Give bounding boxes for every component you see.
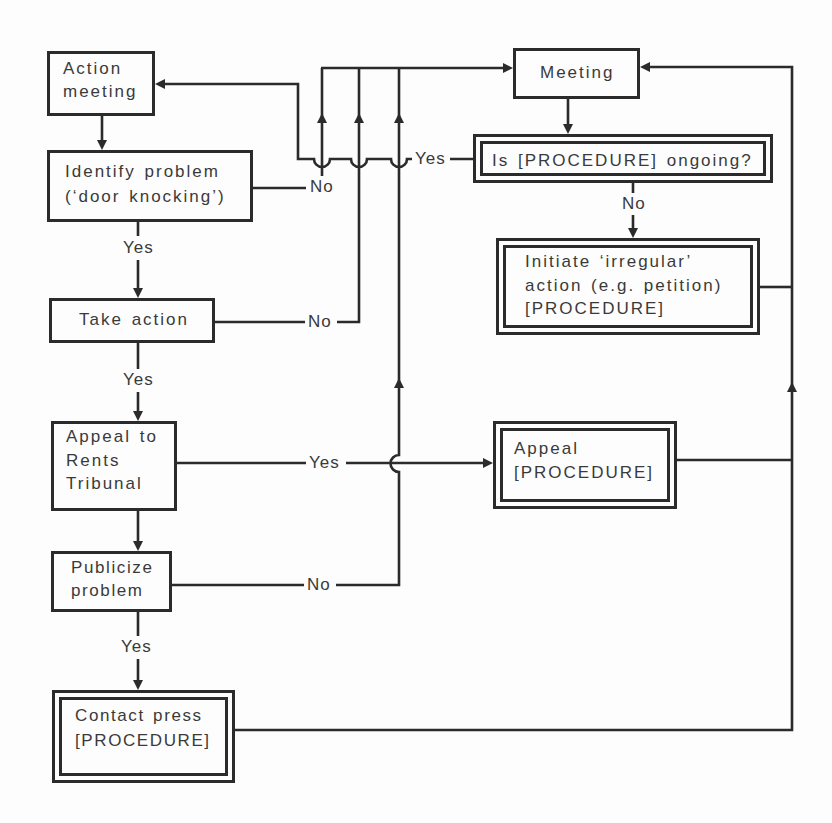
label-line: Identify problem	[65, 159, 226, 184]
node-is-procedure-ongoing: Is [PROCEDURE] ongoing?	[473, 134, 773, 183]
node-label: Is [PROCEDURE] ongoing?	[492, 149, 753, 172]
node-meeting: Meeting	[513, 48, 640, 99]
label-line: action (e.g. petition)	[525, 274, 722, 298]
node-appeal-procedure: Appeal [PROCEDURE]	[493, 421, 677, 509]
arrow-up-icon	[394, 378, 404, 388]
node-label: Publicize problem	[71, 556, 153, 602]
connector-meeting-to-is-procedure	[563, 99, 573, 134]
arrow-down-icon	[133, 680, 143, 690]
edge-label-is-procedure-no: No	[622, 194, 646, 214]
label-line: Action	[63, 57, 137, 80]
label-line: Meeting	[540, 61, 614, 84]
arrow-down-icon	[133, 411, 143, 421]
label-line: [PROCEDURE]	[514, 461, 654, 485]
node-label: Action meeting	[63, 57, 137, 103]
node-take-action: Take action	[49, 298, 215, 343]
label-line: Initiate ‘irregular’	[525, 250, 722, 274]
connector-appeal-rents-to-publicize	[133, 511, 143, 551]
label-line: problem	[71, 579, 153, 602]
arrow-down-icon	[133, 541, 143, 551]
label-line: Tribunal	[66, 472, 158, 496]
node-label: Take action	[79, 308, 189, 331]
edge-label-appeal-rents-yes: Yes	[309, 453, 340, 473]
label-line: Contact press	[75, 703, 211, 728]
connector-identify-problem-no	[253, 68, 327, 188]
arrow-down-icon	[563, 124, 573, 134]
node-label: Appeal [PROCEDURE]	[514, 437, 654, 484]
edge-label-publicize-no: No	[307, 575, 331, 595]
label-line: Rents	[66, 449, 158, 473]
node-label: Initiate ‘irregular’ action (e.g. petiti…	[525, 250, 722, 321]
node-publicize-problem: Publicize problem	[51, 551, 172, 612]
flowchart-canvas: Action meeting Identify problem (‘door k…	[0, 0, 832, 823]
node-label: Identify problem (‘door knocking’)	[65, 159, 226, 209]
label-line: Is [PROCEDURE] ongoing?	[492, 149, 753, 172]
edge-label-identify-no: No	[310, 177, 334, 197]
edge-label-take-action-yes: Yes	[123, 370, 154, 390]
arrow-up-icon	[354, 113, 364, 123]
edge-label-publicize-yes: Yes	[121, 637, 152, 657]
label-line: (‘door knocking’)	[65, 184, 226, 209]
connector-action-meeting-to-identify-problem	[97, 116, 107, 150]
edge-label-identify-yes: Yes	[123, 238, 154, 258]
arrow-down-icon	[628, 228, 638, 238]
arrow-left-icon	[155, 79, 165, 89]
connector-identify-problem-yes	[133, 222, 143, 298]
node-contact-press-procedure: Contact press [PROCEDURE]	[52, 690, 235, 783]
label-line: meeting	[63, 80, 137, 103]
node-initiate-irregular-action-procedure: Initiate ‘irregular’ action (e.g. petiti…	[496, 238, 760, 335]
label-line: [PROCEDURE]	[525, 297, 722, 321]
arrow-up-icon	[394, 113, 404, 123]
arrow-right-icon	[503, 63, 513, 73]
label-line: Take action	[79, 308, 189, 331]
node-label: Appeal to Rents Tribunal	[66, 425, 158, 496]
arrow-up-icon	[787, 382, 797, 392]
arrow-left-icon	[640, 62, 650, 72]
node-identify-problem: Identify problem (‘door knocking’)	[47, 150, 253, 222]
arrow-down-icon	[133, 288, 143, 298]
edge-label-take-action-no: No	[308, 312, 332, 332]
label-line: [PROCEDURE]	[75, 728, 211, 753]
label-line: Appeal to	[66, 425, 158, 449]
edge-label-is-procedure-yes: Yes	[415, 149, 446, 169]
arrow-down-icon	[97, 140, 107, 150]
node-label: Contact press [PROCEDURE]	[75, 703, 211, 753]
arrow-up-icon	[317, 113, 327, 123]
node-action-meeting: Action meeting	[47, 51, 155, 116]
label-line: Appeal	[514, 437, 654, 461]
label-line: Publicize	[71, 556, 153, 579]
node-appeal-rents-tribunal: Appeal to Rents Tribunal	[51, 421, 177, 511]
connector-bus-to-meeting	[321, 63, 513, 73]
arrow-right-icon	[483, 458, 493, 468]
node-label: Meeting	[540, 61, 614, 84]
